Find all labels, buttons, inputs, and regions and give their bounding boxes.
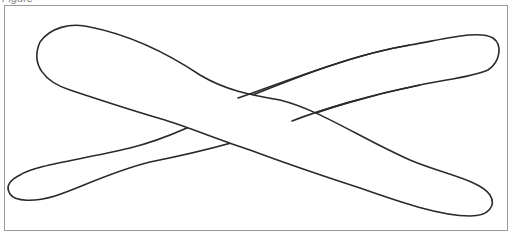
crossed-loops-drawing — [0, 0, 513, 236]
